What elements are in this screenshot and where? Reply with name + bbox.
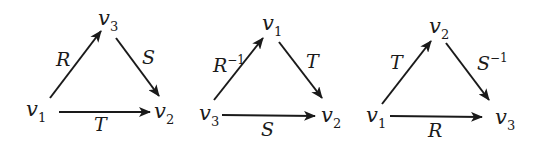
diagram-1: v3 v1 v2 R S T (26, 6, 174, 135)
edge-label-left-to-right: T (94, 113, 108, 135)
diagram-3: v2 v1 v3 T S−1 R (366, 14, 515, 141)
edge-label-left-to-top: T (390, 51, 404, 73)
diagram-2: v1 v3 v2 R−1 T S (199, 11, 341, 140)
edge-label-left-to-right: R (427, 119, 442, 141)
edge-label-left-to-top: R−1 (212, 53, 245, 76)
node-right: v2 (154, 99, 174, 127)
arrow-left-to-right (390, 116, 482, 117)
node-left: v1 (366, 103, 386, 131)
commutative-triangle-diagrams: v3 v1 v2 R S T v1 v3 v2 R−1 T S v2 v1 v3… (0, 0, 537, 146)
edge-label-top-to-right: S (142, 46, 155, 68)
edge-label-left-to-top: R (55, 48, 70, 70)
arrow-left-to-right (222, 115, 315, 116)
edge-label-left-to-right: S (261, 118, 274, 140)
node-top: v1 (262, 11, 282, 39)
node-right: v2 (321, 103, 341, 131)
edge-label-top-to-right: S−1 (477, 51, 508, 74)
node-right: v3 (495, 105, 515, 133)
node-left: v1 (26, 97, 46, 125)
node-top: v3 (98, 6, 118, 34)
node-left: v3 (199, 101, 219, 129)
node-top: v2 (429, 14, 449, 42)
edge-label-top-to-right: T (306, 50, 320, 72)
